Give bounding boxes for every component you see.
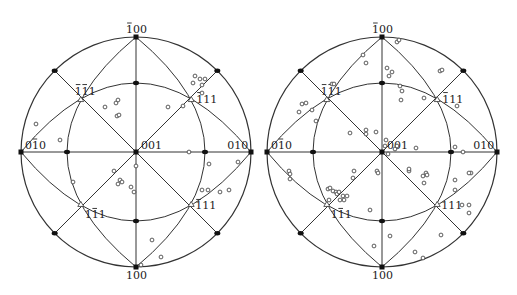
data-point [103,105,107,109]
data-point [304,101,308,105]
data-point [467,171,471,175]
data-point [139,263,143,267]
data-point [345,194,349,198]
label-upper-left: 111 [321,85,342,98]
data-point [181,104,185,108]
data-point [384,138,388,142]
data-point [150,238,154,242]
miller-index-label: 100 [372,23,393,36]
pole-dot-icon [214,231,220,235]
miller-index-label: 100 [126,269,147,282]
data-point [193,74,197,78]
pole-square-icon [265,150,270,155]
miller-index-label: 111 [321,85,342,98]
data-point [368,208,372,212]
label-top: 100 [126,23,147,36]
label-left: 010 [271,139,292,152]
data-point [361,53,365,57]
miller-index-label: 111 [196,93,217,106]
data-point [364,128,368,132]
data-point [407,167,411,171]
data-point [372,244,376,248]
pole-square-icon [495,150,500,155]
pole-square-icon [19,150,24,155]
label-right: 010 [227,139,248,152]
data-point [439,233,443,237]
miller-index-label: 001 [141,139,162,152]
pole-dot-icon [298,231,304,235]
data-point [332,82,336,86]
miller-index-label: 111 [442,93,463,106]
data-point [288,172,292,176]
data-point [461,150,465,154]
data-point [328,186,332,190]
data-point [187,150,191,154]
data-point [400,89,404,93]
data-point [112,169,116,173]
stereogram-right: 100100010010001111111111111 [265,23,500,282]
data-point [425,173,429,177]
data-point [116,182,120,186]
data-point [227,188,231,192]
data-point [300,102,304,106]
miller-index-label: 100 [372,269,393,282]
data-point [116,98,120,102]
pole-square-icon [380,150,385,155]
label-lower-right: 111 [441,199,462,212]
stereographic-projection-figure: 100100010010001111111111111 100100010010… [0,0,517,295]
data-point [71,180,75,184]
data-point [338,198,342,202]
data-point [421,174,425,178]
label-lower-left: 111 [85,208,106,221]
miller-index-label: 010 [25,139,46,152]
label-center: 001 [141,139,162,152]
pole-dot-icon [460,68,466,72]
data-point [34,122,38,126]
data-point [327,198,331,202]
miller-index-label: 111 [331,208,352,221]
miller-index-label: 010 [271,139,292,152]
miller-index-label: 111 [75,85,96,98]
data-point [374,130,378,134]
data-point [413,250,417,254]
data-point [200,188,204,192]
data-point [453,178,457,182]
data-point [364,132,368,136]
data-point [414,146,418,150]
data-point [376,171,380,175]
pole-dot-icon [52,68,58,72]
data-point [364,61,368,65]
miller-index-label: 111 [195,199,216,212]
data-point [455,104,459,108]
data-point [386,152,390,156]
data-point [129,185,133,189]
miller-index-label: 100 [126,23,147,36]
data-point [460,203,464,207]
data-point [385,66,389,70]
data-point [467,211,471,215]
pole-dot-icon [379,81,385,85]
data-point [398,84,402,88]
stereogram-left: 100100010010001111111111111 [19,23,254,282]
pole-dot-icon [214,68,220,72]
pole-square-icon [134,150,139,155]
data-point [310,108,314,112]
data-point [207,162,211,166]
pole-dot-icon [379,219,385,223]
data-point [132,190,136,194]
miller-index-label: 111 [441,199,462,212]
data-point [388,234,392,238]
data-point [236,160,240,164]
data-point [467,203,471,207]
data-point [351,176,355,180]
data-point [348,131,352,135]
data-point [120,180,124,184]
pole-dot-icon [64,150,70,154]
pole-dot-icon [310,150,316,154]
data-point [395,144,399,148]
label-upper-right: 111 [442,93,463,106]
data-point [352,169,356,173]
data-point [440,68,444,72]
data-point [191,81,195,85]
data-point [218,190,222,194]
